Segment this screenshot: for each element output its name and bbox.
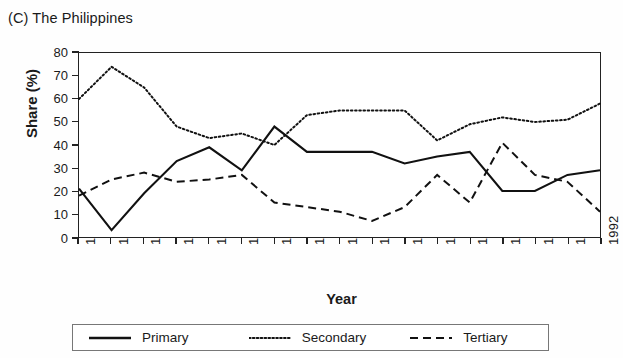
page-title: (C) The Philippines (8, 10, 133, 26)
x-tick-mark (175, 238, 176, 244)
x-axis-tick-1992: 1992 (607, 216, 620, 245)
dotted-line-icon (249, 333, 291, 343)
x-tick-mark (306, 238, 307, 244)
y-axis-label: Share (%) (23, 49, 40, 159)
series-line-primary (79, 127, 600, 231)
x-tick-mark (208, 238, 209, 244)
legend-item-secondary[interactable]: Secondary (227, 330, 387, 345)
y-axis-tick-70: 70 (38, 69, 68, 82)
x-tick-mark (502, 238, 503, 244)
y-axis-tick-50: 50 (38, 115, 68, 128)
x-tick-mark (600, 238, 601, 244)
y-axis-tick-40: 40 (38, 139, 68, 152)
dashed-line-icon (410, 333, 452, 343)
solid-line-icon (89, 333, 131, 343)
x-tick-mark (404, 238, 405, 244)
x-tick-mark (372, 238, 373, 244)
x-tick-mark (437, 238, 438, 244)
chart-legend: PrimarySecondaryTertiary (72, 324, 549, 351)
y-axis-tick-60: 60 (38, 92, 68, 105)
legend-label: Secondary (302, 330, 367, 345)
y-axis-tick-20: 20 (38, 185, 68, 198)
plot-area (78, 52, 601, 238)
x-tick-mark (339, 238, 340, 244)
y-axis-tick-30: 30 (38, 162, 68, 175)
figure-panel: (C) The Philippines Share (%) 8070605040… (0, 0, 623, 358)
series-line-secondary (79, 67, 600, 145)
line-chart-svg (79, 53, 600, 237)
x-tick-mark (110, 238, 111, 244)
legend-label: Primary (142, 330, 189, 345)
legend-label: Tertiary (463, 330, 507, 345)
y-axis-tick-80: 80 (38, 46, 68, 59)
x-tick-mark (77, 238, 78, 244)
x-tick-mark (274, 238, 275, 244)
y-axis-tick-0: 0 (38, 232, 68, 245)
legend-item-tertiary[interactable]: Tertiary (386, 330, 548, 345)
clipped-header-text (0, 0, 623, 9)
legend-item-primary[interactable]: Primary (73, 330, 227, 345)
x-tick-mark (535, 238, 536, 244)
x-axis-label: Year (0, 291, 623, 307)
y-axis-tick-10: 10 (38, 208, 68, 221)
x-tick-mark (470, 238, 471, 244)
x-tick-mark (568, 238, 569, 244)
x-tick-mark (241, 238, 242, 244)
x-tick-mark (143, 238, 144, 244)
